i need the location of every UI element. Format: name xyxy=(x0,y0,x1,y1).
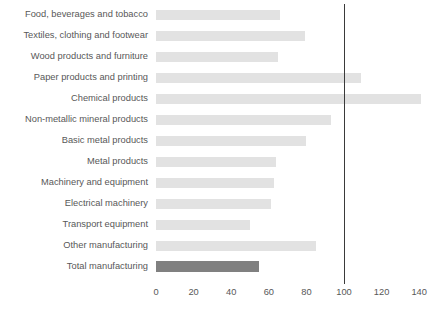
chart-row: Other manufacturing xyxy=(0,235,435,256)
category-label: Other manufacturing xyxy=(0,235,148,256)
chart-plot-area: Food, beverages and tobaccoTextiles, clo… xyxy=(0,0,435,283)
bar xyxy=(156,52,278,62)
x-tick-label: 60 xyxy=(264,287,274,297)
bar xyxy=(156,220,250,230)
chart-row: Transport equipment xyxy=(0,214,435,235)
bar xyxy=(156,157,276,167)
chart-row: Paper products and printing xyxy=(0,67,435,88)
chart-row: Food, beverages and tobacco xyxy=(0,4,435,25)
chart-row: Non-metallic mineral products xyxy=(0,109,435,130)
x-tick-label: 40 xyxy=(226,287,236,297)
category-label: Chemical products xyxy=(0,88,148,109)
category-label: Paper products and printing xyxy=(0,67,148,88)
bar-chart: Food, beverages and tobaccoTextiles, clo… xyxy=(0,0,435,311)
chart-row: Machinery and equipment xyxy=(0,172,435,193)
bar xyxy=(156,10,280,20)
chart-row: Total manufacturing xyxy=(0,256,435,277)
chart-row: Electrical machinery xyxy=(0,193,435,214)
category-label: Machinery and equipment xyxy=(0,172,148,193)
category-label: Textiles, clothing and footwear xyxy=(0,25,148,46)
bar xyxy=(156,73,361,83)
bar xyxy=(156,178,274,188)
x-tick-label: 80 xyxy=(301,287,311,297)
x-tick-label: 140 xyxy=(411,287,427,297)
bar xyxy=(156,241,316,251)
category-label: Food, beverages and tobacco xyxy=(0,4,148,25)
bar xyxy=(156,31,305,41)
category-label: Non-metallic mineral products xyxy=(0,109,148,130)
chart-row: Basic metal products xyxy=(0,130,435,151)
category-label: Wood products and furniture xyxy=(0,46,148,67)
chart-row: Wood products and furniture xyxy=(0,46,435,67)
chart-row: Chemical products xyxy=(0,88,435,109)
x-tick-label: 0 xyxy=(153,287,158,297)
x-axis: 020406080100120140 xyxy=(0,283,435,311)
category-label: Total manufacturing xyxy=(0,256,148,277)
category-label: Electrical machinery xyxy=(0,193,148,214)
bar xyxy=(156,136,306,146)
bar-total-manufacturing xyxy=(156,261,259,272)
x-tick-label: 20 xyxy=(188,287,198,297)
category-label: Transport equipment xyxy=(0,214,148,235)
category-label: Metal products xyxy=(0,151,148,172)
x-tick-label: 100 xyxy=(336,287,352,297)
reference-line-100 xyxy=(344,4,345,284)
category-label: Basic metal products xyxy=(0,130,148,151)
bar xyxy=(156,199,271,209)
bar xyxy=(156,115,331,125)
x-tick-label: 120 xyxy=(374,287,390,297)
bar xyxy=(156,94,421,104)
chart-row: Metal products xyxy=(0,151,435,172)
chart-row: Textiles, clothing and footwear xyxy=(0,25,435,46)
